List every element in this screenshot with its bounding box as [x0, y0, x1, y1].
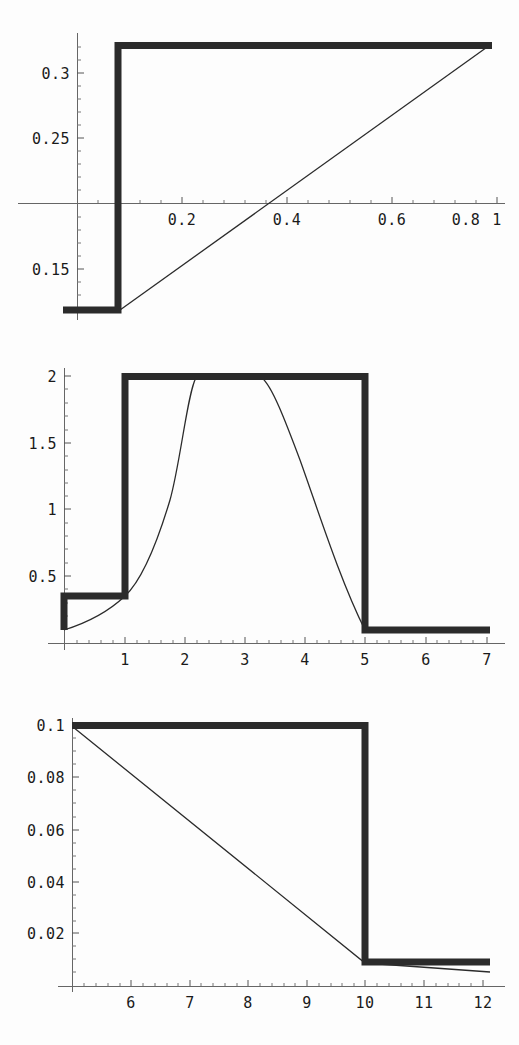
y-major-ticks [64, 376, 71, 576]
xtick-label-2-3: 4 [300, 651, 310, 669]
ytick-label-2-2: 1 [47, 501, 57, 519]
ytick-label-3-1: 0.08 [27, 769, 65, 787]
xtick-label-2-2: 3 [240, 651, 250, 669]
xtick-label-1-1: 0.4 [273, 211, 302, 229]
ytick-label-2-0: 2 [47, 368, 57, 386]
series-step-3 [72, 726, 490, 963]
xtick-label-1-0: 0.2 [168, 211, 197, 229]
series-linear-1 [120, 45, 490, 310]
xtick-label-1-4: 1 [492, 211, 502, 229]
ytick-label-1-0: 0.3 [41, 65, 70, 83]
xtick-label-2-5: 6 [421, 651, 431, 669]
y-major-ticks [77, 73, 84, 269]
y-major-ticks [72, 725, 79, 933]
x-minor-ticks [77, 640, 473, 643]
series-step-2 [64, 377, 490, 631]
x-minor-ticks [84, 983, 471, 986]
ytick-label-3-2: 0.06 [27, 822, 65, 840]
chart-panel-2: 2 1.5 1 0.5 1 2 3 4 5 6 7 [0, 340, 519, 670]
ytick-label-3-0: 0.1 [36, 717, 65, 735]
chart-panel-1-svg: 0.3 0.25 0.15 0.2 0.4 0.6 0.8 1 [0, 0, 519, 340]
xtick-label-2-6: 7 [482, 651, 492, 669]
ytick-label-1-2: 0.15 [32, 261, 70, 279]
axes-group-1 [18, 33, 505, 320]
ytick-label-2-3: 0.5 [28, 568, 57, 586]
xtick-label-3-2: 8 [243, 994, 253, 1012]
xtick-label-3-1: 7 [185, 994, 195, 1012]
series-linear-3 [73, 727, 490, 972]
ytick-label-3-4: 0.02 [27, 925, 65, 943]
xtick-label-1-2: 0.6 [378, 211, 407, 229]
axes-group-2 [48, 368, 505, 650]
xtick-label-3-0: 6 [126, 994, 136, 1012]
figure-page: 0.3 0.25 0.15 0.2 0.4 0.6 0.8 1 [0, 0, 519, 1045]
xtick-label-3-6: 12 [473, 994, 492, 1012]
axes-group-3 [58, 718, 505, 992]
xtick-label-2-0: 1 [120, 651, 130, 669]
x-major-ticks [125, 637, 487, 643]
series-smooth-2 [64, 375, 365, 630]
chart-panel-3-svg: 0.1 0.08 0.06 0.04 0.02 6 7 8 9 10 11 12 [0, 670, 519, 1045]
series-step-1 [63, 46, 492, 311]
chart-panel-3: 0.1 0.08 0.06 0.04 0.02 6 7 8 9 10 11 12 [0, 670, 519, 1045]
ytick-label-2-1: 1.5 [28, 435, 57, 453]
xtick-label-3-3: 9 [302, 994, 312, 1012]
xtick-label-2-1: 2 [180, 651, 190, 669]
ytick-label-1-1: 0.25 [32, 130, 70, 148]
xtick-label-3-5: 11 [414, 994, 433, 1012]
xtick-label-3-4: 10 [355, 994, 374, 1012]
x-major-ticks [182, 197, 497, 203]
x-major-ticks [131, 980, 483, 986]
ytick-label-3-3: 0.04 [27, 874, 65, 892]
xtick-label-2-4: 5 [360, 651, 370, 669]
chart-panel-1: 0.3 0.25 0.15 0.2 0.4 0.6 0.8 1 [0, 0, 519, 340]
chart-panel-2-svg: 2 1.5 1 0.5 1 2 3 4 5 6 7 [0, 340, 519, 670]
xtick-label-1-3: 0.8 [452, 211, 481, 229]
